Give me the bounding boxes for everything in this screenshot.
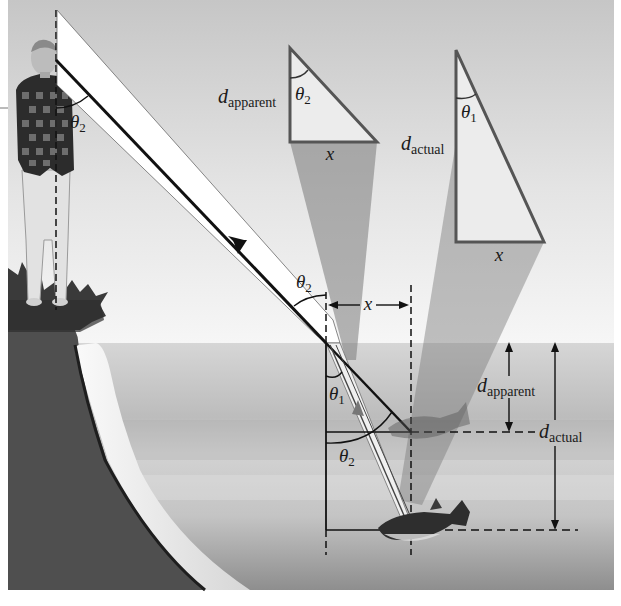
- refraction-diagram: x dapparent dactual θ2 θ2 θ1 θ2 θ2 x dap…: [0, 0, 621, 606]
- triangle-apparent-base-label: x: [325, 143, 335, 164]
- diagram-canvas: x dapparent dactual θ2 θ2 θ1 θ2 θ2 x dap…: [0, 0, 621, 606]
- triangle-actual-base-label: x: [494, 244, 504, 265]
- x-dimension-label: x: [363, 293, 373, 314]
